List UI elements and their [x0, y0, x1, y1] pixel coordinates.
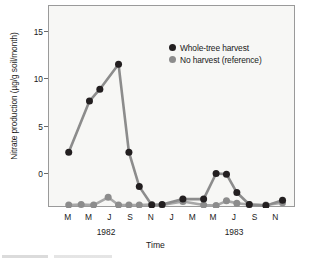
- data-point: [78, 201, 85, 208]
- series-line-1: [69, 64, 283, 205]
- x-tick-label-6: M: [185, 212, 199, 222]
- y-tick-label-15: 15: [23, 27, 43, 37]
- legend-item-no-harvest-reference: No harvest (reference): [169, 54, 262, 65]
- data-point: [115, 61, 122, 68]
- data-point: [105, 194, 112, 201]
- plot-area: [48, 5, 295, 207]
- plot-svg: [49, 6, 296, 208]
- data-point: [159, 201, 166, 208]
- x-tick-label-4: N: [144, 212, 158, 222]
- x-tick-label-0: M: [61, 212, 75, 222]
- data-point: [246, 201, 253, 208]
- data-point: [213, 202, 220, 208]
- data-point: [136, 202, 143, 208]
- x-tick-label-10: N: [268, 212, 282, 222]
- data-point: [233, 189, 240, 196]
- data-point: [125, 202, 132, 208]
- caption-sliver: [2, 255, 112, 258]
- y-tick-label-0: 0: [23, 169, 43, 179]
- legend: Whole-tree harvest No harvest (reference…: [169, 42, 262, 66]
- y-tick-label-10: 10: [23, 74, 43, 84]
- y-tick-label-5: 5: [23, 122, 43, 132]
- legend-label-whole-tree-harvest: Whole-tree harvest: [180, 43, 249, 53]
- data-point: [233, 200, 240, 207]
- data-point: [125, 149, 132, 156]
- x-tick-label-7: M: [206, 212, 220, 222]
- data-point: [96, 86, 103, 93]
- data-point: [86, 98, 93, 105]
- data-point: [65, 149, 72, 156]
- legend-item-whole-tree-harvest: Whole-tree harvest: [169, 42, 262, 53]
- x-tick-label-1: M: [81, 212, 95, 222]
- x-tick-label-5: J: [165, 212, 179, 222]
- y-axis-title: Nitrate production (µg/g soil/month): [9, 0, 19, 197]
- data-point: [65, 202, 72, 208]
- data-point: [223, 171, 230, 178]
- data-point: [136, 183, 143, 190]
- x-tick-label-3: S: [123, 212, 137, 222]
- legend-marker-icon-no-harvest-reference: [169, 56, 176, 63]
- x-year-label-1982: 1982: [86, 227, 126, 237]
- x-tick-label-8: J: [227, 212, 241, 222]
- legend-label-no-harvest-reference: No harvest (reference): [180, 55, 262, 65]
- data-point: [279, 197, 286, 204]
- x-year-label-1983: 1983: [214, 227, 254, 237]
- data-point: [223, 197, 230, 204]
- data-point: [179, 196, 186, 203]
- legend-marker-icon-whole-tree-harvest: [169, 44, 176, 51]
- figure-nitrate-production: Nitrate production (µg/g soil/month) 15 …: [0, 0, 311, 259]
- data-point: [213, 170, 220, 177]
- x-tick-label-2: J: [102, 212, 116, 222]
- data-point: [200, 196, 207, 203]
- x-axis-title: Time: [0, 240, 311, 250]
- x-tick-label-9: S: [248, 212, 262, 222]
